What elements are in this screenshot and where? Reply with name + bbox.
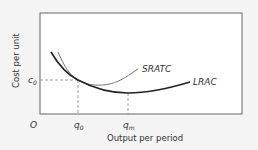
plot-frame (40, 13, 242, 114)
sratc-label: SRATC (142, 64, 172, 74)
qm-tick-label: qm (123, 120, 135, 131)
origin-label: O (30, 120, 37, 130)
q0-tick-label: q0 (74, 120, 84, 131)
x-axis-label: Output per period (107, 133, 183, 143)
cost-curves-chart: SRATC LRAC c0 O q0 qm Output per period … (0, 0, 258, 150)
lrac-label: LRAC (193, 77, 217, 87)
c0-tick-label: c0 (28, 75, 37, 86)
y-axis-label: Cost per unit (11, 32, 21, 88)
